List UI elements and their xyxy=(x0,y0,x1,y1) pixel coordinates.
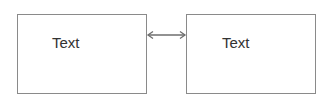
diagram-node-left[interactable]: Text xyxy=(17,14,147,94)
node-label: Text xyxy=(52,35,80,50)
node-label: Text xyxy=(222,35,250,50)
diagram-node-right[interactable]: Text xyxy=(186,14,316,94)
arrow-head-left-icon xyxy=(148,32,153,39)
arrow-head-right-icon xyxy=(180,32,185,39)
